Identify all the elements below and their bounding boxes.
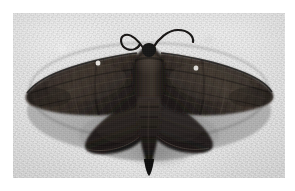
page-root <box>0 0 295 191</box>
left-wing-spot <box>96 60 101 65</box>
moth-illustration <box>13 13 285 178</box>
photograph <box>13 13 285 178</box>
abdomen-tip <box>144 159 154 176</box>
antennae-group <box>121 30 193 50</box>
moth-specimen <box>13 13 285 178</box>
right-wing-spot <box>194 65 199 70</box>
